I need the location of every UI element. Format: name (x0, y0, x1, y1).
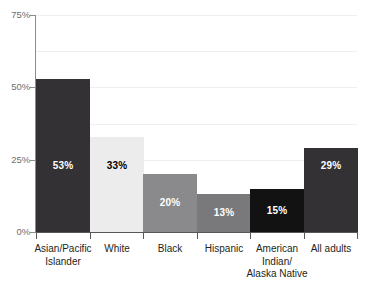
x-tick-mark (36, 232, 37, 239)
bar-value-label: 29% (304, 160, 358, 171)
x-axis-category-line: Indian/ (236, 256, 318, 269)
y-tick-label: 50% (0, 81, 30, 92)
x-axis-category-label: All adults (290, 243, 366, 256)
bar: 13% (197, 194, 251, 232)
bar-value-label: 15% (250, 205, 304, 216)
gridline (36, 15, 357, 16)
x-axis-category-line: Alaska Native (236, 268, 318, 281)
y-tick-label: 0% (0, 226, 30, 237)
x-tick-mark (304, 232, 305, 239)
y-tick-label: 25% (0, 154, 30, 165)
x-axis-category-line: All adults (290, 243, 366, 256)
bar-value-label: 20% (143, 197, 197, 208)
x-tick-mark (197, 232, 198, 239)
bar: 53% (36, 79, 90, 232)
bar-value-label: 13% (197, 207, 251, 218)
x-tick-mark (90, 232, 91, 239)
x-tick-mark (357, 232, 358, 239)
y-tick-mark (30, 15, 36, 16)
gridline (36, 51, 357, 52)
x-tick-mark (250, 232, 251, 239)
bar: 29% (304, 148, 358, 232)
bar: 33% (90, 137, 144, 232)
bar: 20% (143, 174, 197, 232)
bar-value-label: 53% (36, 160, 90, 171)
x-tick-mark (143, 232, 144, 239)
y-tick-label: 75% (0, 9, 30, 20)
bar-chart-figure: 0%25%50%75% 53%33%20%13%15%29% Asian/Pac… (0, 0, 366, 285)
bar: 15% (250, 189, 304, 232)
x-axis-category-line: Islander (22, 256, 104, 269)
bar-value-label: 33% (90, 160, 144, 171)
